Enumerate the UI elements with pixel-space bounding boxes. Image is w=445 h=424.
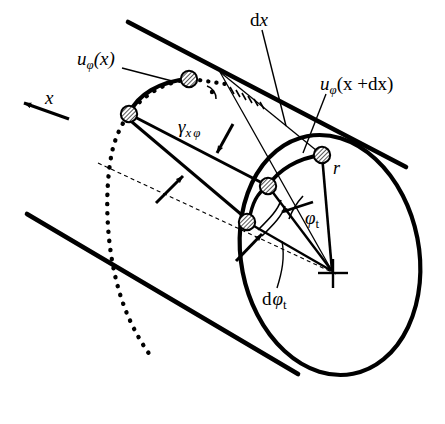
d-phi-t-sub: t [283,297,287,312]
dx-label: dx [250,10,268,29]
leader-dx [262,30,286,126]
node-rim [314,147,330,163]
angle-arc-d-phi-t-inner [262,206,285,236]
dx-x: x [260,9,268,30]
u-phi-xdx-base: u [320,73,330,94]
u-phi-xdx-arg: (x +dx) [337,73,394,94]
dx-d: d [250,9,260,30]
leader-u-phi-x [122,68,176,82]
u-phi-x-sub: φ [87,57,94,72]
radius-line-rim [322,155,332,271]
shell-element-undeformed [129,79,270,221]
u-phi-x-arrow [156,176,183,203]
angle-arc-d-phi-t [258,200,281,230]
d-phi-t-base: φ [272,288,284,309]
figure-canvas: x uφ(x) dx uφ(x +dx) γxφ r φt dφt [0,0,445,424]
diagram-svg [0,0,445,424]
gamma-arrow [217,124,233,153]
u-phi-x-dx-label: uφ(x +dx) [320,74,393,97]
phi-t-label: φt [305,208,319,231]
node-top-left [121,106,137,122]
node-bottom-left [239,214,255,230]
d-phi-t-d: d [262,288,272,309]
node-bottom-right [260,178,276,194]
gamma-sub-phi: φ [191,125,200,140]
left-cross-section-dotted [107,79,189,355]
gamma-x-phi-label: γxφ [178,117,200,140]
gamma-base: γ [178,116,186,137]
u-phi-x-label: uφ(x) [77,49,115,72]
d-phi-t-label: dφt [262,289,287,312]
phi-t-base: φ [305,207,316,228]
element-left-arc [129,79,189,114]
u-phi-xdx-sub: φ [330,82,337,97]
axis-center-cross-icon [318,259,348,288]
u-phi-x-base: u [77,48,87,69]
radius-label: r [333,159,340,177]
u-phi-x-arg: (x) [94,48,115,69]
axis-x-label: x [45,88,53,107]
right-angle-icon [207,86,216,99]
cylinder-axis-dashed [98,163,336,274]
node-top-right [181,71,197,87]
leader-d-phi-t [277,241,283,288]
phi-t-sub: t [316,216,320,231]
